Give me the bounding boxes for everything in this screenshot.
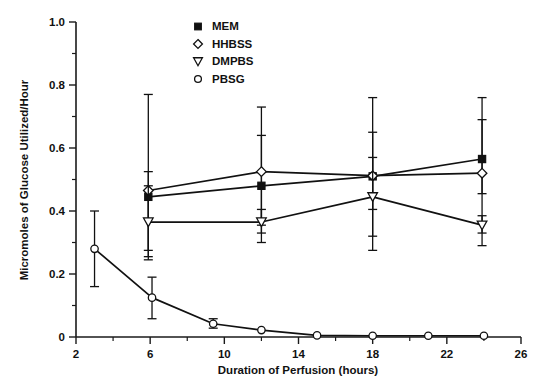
marker-open-circle — [480, 332, 487, 339]
x-tick-label: 14 — [292, 348, 305, 360]
legend-label: PBSG — [212, 73, 245, 85]
y-tick-label: 0.6 — [49, 142, 65, 154]
series-line-dmpbs — [148, 197, 482, 225]
marker-open-circle — [148, 294, 155, 301]
marker-open-triangle-down — [477, 221, 487, 230]
y-axis-tick-labels: 00.20.40.60.81.0 — [49, 16, 66, 343]
x-axis-ticks — [76, 337, 521, 344]
marker-open-circle — [195, 76, 202, 83]
legend-item-dmpbs: DMPBS — [194, 55, 254, 67]
y-tick-label: 0 — [59, 331, 65, 343]
marker-open-diamond — [194, 40, 203, 49]
marker-open-circle — [425, 332, 432, 339]
y-tick-label: 1.0 — [49, 16, 65, 28]
marker-open-circle — [258, 326, 265, 333]
legend-item-hhbss: HHBSS — [194, 38, 253, 50]
marker-open-circle — [210, 320, 217, 327]
x-tick-label: 6 — [147, 348, 153, 360]
series-mem — [144, 120, 487, 251]
x-axis-tick-labels: 261014182226 — [73, 348, 528, 360]
markers-dmpbs — [144, 193, 487, 230]
marker-open-diamond — [477, 168, 487, 178]
x-tick-label: 18 — [366, 348, 379, 360]
series-pbsg — [90, 211, 488, 339]
error-bars-pbsg — [90, 211, 218, 328]
y-tick-label: 0.4 — [49, 205, 66, 217]
figure-root: 261014182226 00.20.40.60.81.0 Duration o… — [0, 0, 560, 392]
marker-open-circle — [313, 332, 320, 339]
series-hhbss — [144, 94, 487, 259]
y-axis-title: Micromoles of Glucose Utilized/Hour — [18, 79, 30, 280]
legend-label: MEM — [212, 20, 239, 32]
marker-open-triangle-down — [194, 58, 203, 66]
y-axis-ticks — [69, 22, 76, 337]
x-tick-label: 2 — [73, 348, 79, 360]
marker-filled-square — [195, 23, 202, 30]
error-bars-mem — [144, 120, 487, 251]
x-tick-label: 22 — [440, 348, 453, 360]
chart-legend: MEMHHBSSDMPBSPBSG — [194, 20, 254, 85]
marker-open-circle — [91, 245, 98, 252]
legend-label: DMPBS — [212, 55, 254, 67]
series-line-pbsg — [95, 249, 484, 336]
marker-open-diamond — [257, 167, 267, 177]
error-bars-dmpbs — [144, 157, 487, 256]
series-line-mem — [148, 159, 482, 197]
legend-item-pbsg: PBSG — [195, 73, 245, 85]
legend-label: HHBSS — [212, 38, 253, 50]
y-tick-label: 0.8 — [49, 79, 66, 91]
legend-item-mem: MEM — [195, 20, 239, 32]
x-axis-title: Duration of Perfusion (hours) — [218, 364, 379, 376]
error-bars-hhbss — [144, 94, 487, 259]
markers-mem — [145, 155, 486, 200]
glucose-utilization-line-chart: 261014182226 00.20.40.60.81.0 Duration o… — [0, 0, 560, 392]
x-tick-label: 26 — [515, 348, 528, 360]
marker-open-circle — [369, 332, 376, 339]
series-dmpbs — [144, 157, 487, 256]
y-tick-label: 0.2 — [49, 268, 65, 280]
data-series-group — [90, 94, 488, 339]
x-tick-label: 10 — [218, 348, 231, 360]
